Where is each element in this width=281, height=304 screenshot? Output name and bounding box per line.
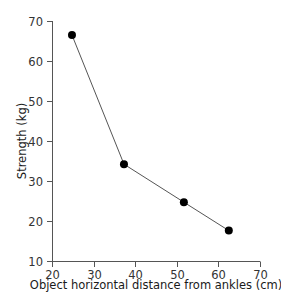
- y-tick-label: 10: [28, 255, 43, 269]
- y-tick-label: 70: [28, 15, 43, 29]
- y-tick-label: 50: [28, 95, 43, 109]
- data-point: [225, 227, 233, 235]
- y-tick-label: 60: [28, 55, 43, 69]
- data-point: [180, 198, 188, 206]
- y-tick-label: 20: [28, 215, 43, 229]
- y-tick-label: 30: [28, 175, 43, 189]
- y-axis-title: Strength (kg): [15, 103, 29, 179]
- x-axis-title: Object horizontal distance from ankles (…: [30, 278, 281, 292]
- data-point: [120, 160, 128, 168]
- data-point: [68, 31, 76, 39]
- line-chart-canvas: 10203040506070 203040506070 Strength (kg…: [0, 0, 281, 304]
- y-tick-label: 40: [28, 135, 43, 149]
- chart-figure: 10203040506070 203040506070 Strength (kg…: [0, 0, 281, 304]
